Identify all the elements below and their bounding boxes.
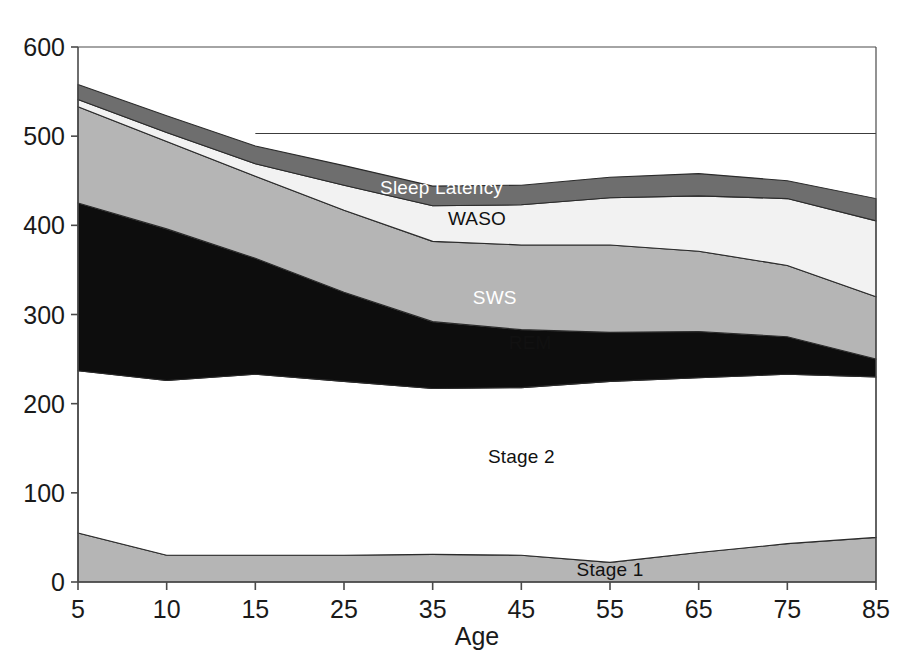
series-label-rem: REM	[509, 332, 552, 354]
x-tick-label-75: 75	[773, 595, 801, 624]
y-tick-label-0: 0	[51, 568, 65, 597]
y-tick-label-500: 500	[23, 122, 65, 151]
x-tick-label-55: 55	[596, 595, 624, 624]
y-tick-label-600: 600	[23, 33, 65, 62]
series-label-sws: SWS	[473, 287, 517, 309]
series-label-waso: WASO	[448, 208, 506, 230]
y-tick-label-400: 400	[23, 211, 65, 240]
stacked-area-plot	[0, 0, 914, 667]
series-label-stage-2: Stage 2	[488, 446, 555, 468]
x-tick-label-15: 15	[241, 595, 269, 624]
y-tick-label-100: 100	[23, 478, 65, 507]
y-tick-label-200: 200	[23, 389, 65, 418]
x-tick-label-5: 5	[71, 595, 85, 624]
y-tick-label-300: 300	[23, 300, 65, 329]
x-tick-label-65: 65	[685, 595, 713, 624]
x-tick-label-25: 25	[330, 595, 358, 624]
series-label-stage-1: Stage 1	[577, 559, 644, 581]
series-label-sleep-latency: Sleep Latency	[380, 177, 503, 199]
area-series-group	[78, 84, 876, 582]
x-tick-label-10: 10	[153, 595, 181, 624]
x-tick-label-85: 85	[862, 595, 890, 624]
x-tick-label-45: 45	[507, 595, 535, 624]
area-stage-2	[78, 371, 876, 563]
x-tick-label-35: 35	[419, 595, 447, 624]
x-axis-title: Age	[455, 622, 499, 651]
chart-container: 0100200300400500600 5101525354555657585 …	[0, 0, 914, 667]
